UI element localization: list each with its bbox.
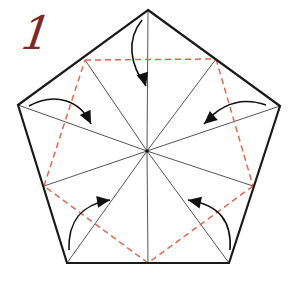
crease-line [147, 151, 229, 263]
origami-diagram: 1 [0, 0, 295, 282]
crease-line [147, 151, 253, 186]
valley-fold-line [44, 60, 85, 186]
arrow-shaft [188, 200, 230, 250]
crease-line [147, 106, 280, 151]
crease-line [44, 151, 147, 186]
crease-line [67, 151, 147, 263]
crease-line [147, 151, 148, 263]
valley-fold-lines [44, 59, 253, 263]
valley-fold-line [216, 59, 253, 186]
arrow-shaft [69, 200, 110, 250]
arrow-top-icon [132, 20, 148, 86]
arrow-head [80, 110, 91, 124]
arrow-right-icon [204, 101, 266, 124]
arrow-bottom-right-icon [188, 197, 230, 250]
crease-line [147, 59, 216, 151]
center-point [145, 149, 149, 153]
pentagon-outline [18, 10, 280, 263]
arrow-bottom-left-icon [69, 196, 110, 250]
valley-fold-line [44, 186, 148, 263]
crease-line [147, 10, 148, 151]
arrow-head [188, 197, 202, 209]
valley-fold-line [85, 59, 216, 60]
